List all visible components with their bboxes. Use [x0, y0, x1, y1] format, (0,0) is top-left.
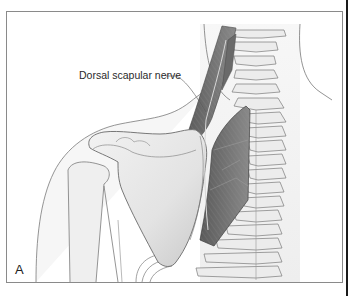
dorsal-scapular-nerve-label: Dorsal scapular nerve	[79, 69, 181, 81]
anatomy-illustration	[0, 0, 348, 296]
panel-label: A	[15, 262, 24, 277]
